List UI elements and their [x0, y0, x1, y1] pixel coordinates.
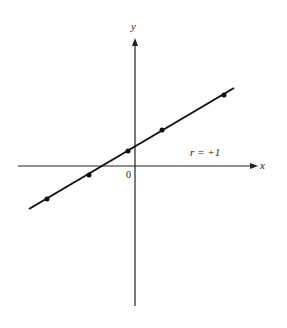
x-axis-arrow-icon [250, 163, 258, 169]
y-axis-arrow-icon [132, 38, 138, 46]
x-axis-label: x [259, 159, 265, 171]
y-axis-label: y [130, 20, 136, 32]
origin-label: 0 [126, 169, 131, 180]
scatter-diagram: y x 0 r = +1 [0, 0, 287, 328]
correlation-annotation: r = +1 [190, 146, 220, 158]
